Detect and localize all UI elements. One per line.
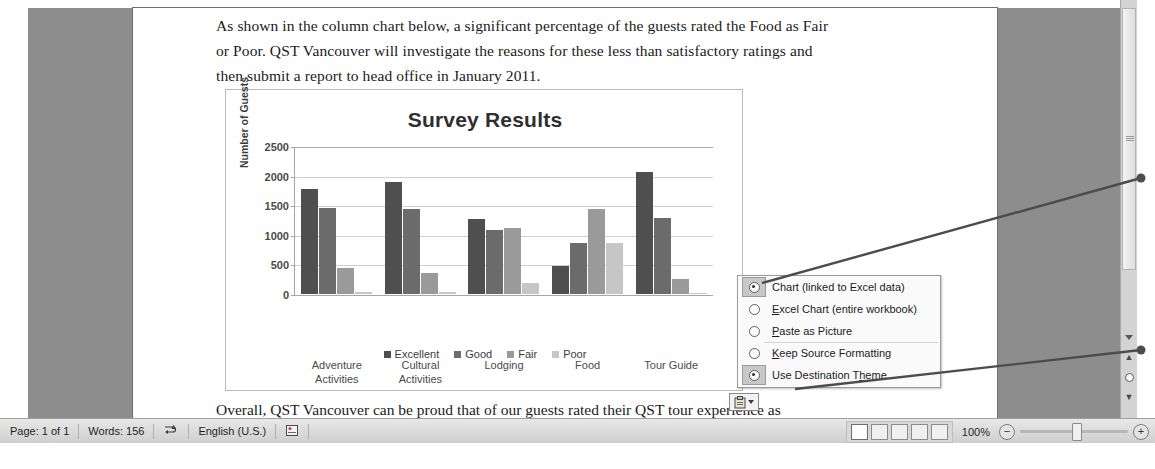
chart-bar xyxy=(385,182,402,294)
chart-bar xyxy=(439,292,456,294)
next-page-button[interactable]: ▼ xyxy=(1122,390,1136,405)
chart-legend-label: Poor xyxy=(563,348,586,360)
paste-option-label: Paste as Picture xyxy=(766,325,852,337)
chart-legend-label: Good xyxy=(465,348,492,360)
clipboard-icon xyxy=(734,396,746,409)
paste-option-item[interactable]: Keep Source Formatting xyxy=(738,342,940,364)
chart-bar xyxy=(672,279,689,294)
spellcheck-icon[interactable] xyxy=(163,424,179,439)
radio-unselected-icon xyxy=(749,326,760,337)
status-divider xyxy=(153,424,154,439)
chart-legend-label: Excellent xyxy=(395,348,440,360)
status-divider xyxy=(275,424,276,439)
word-application-window: As shown in the column chart below, a si… xyxy=(0,0,1155,469)
paste-option-item[interactable]: Paste as Picture xyxy=(738,320,940,342)
chart-y-tick-label: 2500 xyxy=(265,141,289,153)
paste-option-radio[interactable] xyxy=(742,299,766,319)
language-indicator[interactable]: English (U.S.) xyxy=(198,425,266,437)
status-bar-left-group: Page: 1 of 1 Words: 156 English (U.S.) xyxy=(0,424,318,439)
chart-y-tick-mark xyxy=(291,295,295,296)
chart-bar xyxy=(636,172,653,294)
survey-results-chart[interactable]: Survey Results Number of Guests 05001000… xyxy=(225,89,743,391)
chart-bar xyxy=(504,228,521,294)
paste-option-item[interactable]: Use Destination Theme xyxy=(738,364,940,386)
paste-options-button[interactable] xyxy=(729,393,759,411)
chart-legend-item: Fair xyxy=(507,348,537,360)
draft-view-button[interactable] xyxy=(931,424,948,440)
paragraph-line-2: or Poor. QST Vancouver will investigate … xyxy=(216,38,828,63)
chart-y-axis-title: Number of Guests xyxy=(238,77,250,168)
chart-bar xyxy=(606,243,623,294)
view-mode-buttons[interactable] xyxy=(846,421,953,443)
double-up-arrow-icon: ▲ xyxy=(1125,353,1134,362)
vertical-scrollbar[interactable]: ▲ ▼ xyxy=(1120,0,1137,418)
paste-option-label: Chart (linked to Excel data) xyxy=(766,281,905,293)
chart-legend-item: Good xyxy=(454,348,492,360)
chart-title: Survey Results xyxy=(226,108,744,132)
caret-down-icon xyxy=(748,400,754,404)
paste-option-radio[interactable] xyxy=(742,343,766,363)
status-bar: Page: 1 of 1 Words: 156 English (U.S.) xyxy=(0,418,1155,443)
full-screen-reading-view-button[interactable] xyxy=(871,424,888,440)
radio-selected-icon xyxy=(749,282,760,293)
scroll-down-button[interactable] xyxy=(1122,330,1136,345)
window-right-edge xyxy=(1137,0,1155,418)
zoom-slider-handle[interactable] xyxy=(1072,423,1082,441)
zoom-in-button[interactable]: + xyxy=(1133,424,1149,440)
select-browse-object-button[interactable] xyxy=(1122,370,1136,385)
paste-option-label: Excel Chart (entire workbook) xyxy=(766,303,917,315)
word-count[interactable]: Words: 156 xyxy=(88,425,144,437)
chart-bar-group xyxy=(295,147,379,294)
paragraph-line-3: then submit a report to head office in J… xyxy=(216,63,828,88)
paste-option-item[interactable]: Excel Chart (entire workbook) xyxy=(738,298,940,320)
chart-bar xyxy=(570,243,587,295)
workspace-left-margin xyxy=(0,0,28,418)
chart-bar-group xyxy=(379,147,463,294)
record-macro-icon[interactable] xyxy=(285,424,299,439)
page-indicator[interactable]: Page: 1 of 1 xyxy=(10,425,69,437)
paste-options-menu[interactable]: Chart (linked to Excel data)Excel Chart … xyxy=(737,275,941,388)
chart-bar xyxy=(522,283,539,294)
zoom-slider[interactable] xyxy=(1020,430,1128,433)
chart-bar xyxy=(588,209,605,294)
chart-y-tick-label: 500 xyxy=(271,259,289,271)
chart-bar xyxy=(355,292,372,294)
status-divider xyxy=(308,424,309,439)
radio-selected-icon xyxy=(749,370,760,381)
chart-y-tick-label: 2000 xyxy=(265,171,289,183)
chart-bar xyxy=(552,266,569,294)
web-layout-view-button[interactable] xyxy=(891,424,908,440)
zoom-level-label[interactable]: 100% xyxy=(958,426,994,438)
paste-option-radio[interactable] xyxy=(742,321,766,341)
chart-bar-group xyxy=(546,147,630,294)
zoom-out-button[interactable]: − xyxy=(999,424,1015,440)
chart-y-tick-label: 1500 xyxy=(265,200,289,212)
radio-unselected-icon xyxy=(749,348,760,359)
below-window-area xyxy=(0,443,1155,469)
chart-bar xyxy=(301,189,318,294)
paste-option-label: Use Destination Theme xyxy=(766,369,887,381)
paragraph-line-1: As shown in the column chart below, a si… xyxy=(216,13,828,38)
browse-object-circle-icon xyxy=(1125,373,1134,382)
chart-y-tick-label: 1000 xyxy=(265,230,289,242)
chart-legend-swatch xyxy=(454,351,461,358)
chart-bar xyxy=(403,209,420,294)
triangle-down-icon xyxy=(1125,335,1133,340)
outline-view-button[interactable] xyxy=(911,424,928,440)
status-bar-right-group: 100% − + xyxy=(846,419,1149,444)
chart-bar xyxy=(337,268,354,294)
paste-option-label: Keep Source Formatting xyxy=(766,347,891,359)
chart-bar xyxy=(654,218,671,294)
paste-option-radio[interactable] xyxy=(742,277,766,297)
paste-option-radio[interactable] xyxy=(742,365,766,385)
chart-legend-swatch xyxy=(507,351,514,358)
chart-bar-group xyxy=(462,147,546,294)
print-layout-view-button[interactable] xyxy=(851,424,868,440)
chart-legend-swatch xyxy=(384,351,391,358)
paste-option-item[interactable]: Chart (linked to Excel data) xyxy=(738,276,940,298)
previous-page-button[interactable]: ▲ xyxy=(1122,350,1136,365)
chart-x-tick-label: Tour Guide xyxy=(619,358,723,372)
scrollbar-thumb[interactable] xyxy=(1122,8,1136,270)
chart-bar xyxy=(468,219,485,294)
chart-legend-swatch xyxy=(552,351,559,358)
